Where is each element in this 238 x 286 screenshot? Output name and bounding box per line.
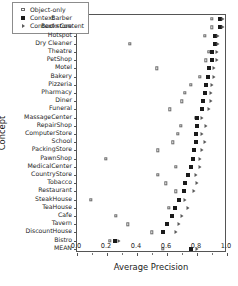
y-axis-label-barber: Barber (51, 15, 72, 21)
data-point-object-only (126, 223, 129, 226)
data-point-object-only (164, 182, 167, 185)
data-point-context-content (199, 165, 202, 169)
y-axis-label-petshop: PetShop (47, 56, 72, 62)
data-point-context-content (215, 50, 218, 54)
x-axis-tick-label: 1.0 (221, 243, 232, 250)
y-axis-tick (74, 191, 77, 192)
x-axis-tick-label: 0.8 (191, 243, 202, 250)
y-axis-tick (74, 36, 77, 37)
y-axis-tick (74, 68, 77, 69)
y-axis-tick (74, 224, 77, 225)
y-axis-label-funeral: Funeral (49, 105, 72, 111)
data-point-object-only (210, 26, 213, 29)
data-point-context-content (199, 157, 202, 161)
y-axis-label-massagecenter: MassageCenter (24, 113, 72, 119)
data-point-context-content (212, 66, 215, 70)
data-point-context (161, 230, 165, 234)
y-axis-label-tavern: Tavern (52, 220, 72, 226)
data-point-object-only (171, 141, 174, 144)
data-point-object-only (174, 165, 177, 168)
data-point-object-only (176, 132, 179, 135)
y-axis-label-packingstore: PackingStore (32, 146, 72, 152)
average-precision-scatter-chart: Concept Average Precision Object-only Co… (0, 0, 238, 286)
data-point-context (210, 50, 214, 54)
data-point-object-only (183, 91, 186, 94)
y-axis-label-diner: Diner (55, 97, 72, 103)
data-point-context-content (217, 42, 220, 46)
y-axis-tick (74, 109, 77, 110)
markers-layer (77, 15, 225, 251)
data-point-context-content (200, 132, 203, 136)
data-point-context-content (187, 206, 190, 210)
y-axis-label-tobacco: Tobacco (47, 179, 72, 185)
data-point-object-only (89, 198, 92, 201)
data-point-context (206, 75, 210, 79)
y-axis-tick (74, 126, 77, 127)
x-axis-tick (197, 253, 198, 256)
data-point-object-only (189, 83, 192, 86)
y-axis-label-school: School (51, 138, 72, 144)
y-axis-label-repairshop: RepairShop (37, 122, 72, 128)
x-axis-tick-label: 0.0 (71, 243, 82, 250)
y-axis-tick (74, 118, 77, 119)
y-axis-title: Concept (0, 116, 7, 151)
data-point-context (191, 157, 195, 161)
plot-area (76, 14, 226, 252)
y-axis-label-cafe: Cafe (58, 212, 72, 218)
data-point-object-only (128, 42, 131, 45)
data-point-context-content (208, 107, 211, 111)
data-point-context (192, 148, 196, 152)
y-axis-label-restaurant: Restaurant (38, 187, 72, 193)
data-point-object-only (168, 108, 171, 111)
data-point-context (177, 198, 181, 202)
data-point-context-content (184, 198, 187, 202)
data-point-context-content (221, 17, 224, 21)
y-axis-tick (74, 208, 77, 209)
data-point-context-content (193, 189, 196, 193)
x-axis-minor-tick (182, 253, 183, 255)
data-point-context (183, 181, 187, 185)
data-point-context (201, 99, 205, 103)
data-point-context (195, 116, 199, 120)
data-point-context-content (221, 25, 224, 29)
data-point-context (200, 107, 204, 111)
x-axis-tick-label: 0.6 (161, 243, 172, 250)
y-axis-tick (74, 77, 77, 78)
data-point-context-content (118, 239, 121, 243)
x-axis-tick (167, 253, 168, 256)
y-axis-tick (74, 150, 77, 151)
data-point-object-only (204, 58, 207, 61)
x-axis-title: Average Precision (76, 262, 226, 272)
data-point-object-only (179, 124, 182, 127)
y-axis-tick (74, 159, 77, 160)
data-point-context-content (209, 99, 212, 103)
y-axis-tick (74, 44, 77, 45)
data-point-object-only (180, 99, 183, 102)
data-point-context-content (203, 140, 206, 144)
data-point-context (203, 91, 207, 95)
y-axis-label-pawnshop: PawnShop (40, 155, 72, 161)
data-point-context-content (175, 230, 178, 234)
data-point-context-content (211, 83, 214, 87)
data-point-context (182, 189, 186, 193)
y-axis-label-teahouse: TeaHouse (42, 204, 72, 210)
y-axis-tick (74, 232, 77, 233)
y-axis-tick (74, 175, 77, 176)
y-axis-tick (74, 101, 77, 102)
y-axis-label-discounthouse: DiscountHouse (25, 228, 72, 234)
data-point-object-only (155, 67, 158, 70)
y-axis-label-dry-cleaner: Dry Cleaner (35, 40, 72, 46)
data-point-context-content (212, 75, 215, 79)
data-point-object-only (210, 17, 213, 20)
data-point-context (194, 132, 198, 136)
y-axis-label-bakery: Bakery (51, 72, 72, 78)
data-point-context-content (205, 124, 208, 128)
data-point-context (210, 58, 214, 62)
data-point-context-content (209, 91, 212, 95)
x-axis-minor-tick (122, 253, 123, 255)
data-point-context (194, 140, 198, 144)
y-axis-tick (74, 134, 77, 135)
data-point-context-content (178, 222, 181, 226)
x-axis-minor-tick (92, 253, 93, 255)
data-point-object-only (114, 214, 117, 217)
